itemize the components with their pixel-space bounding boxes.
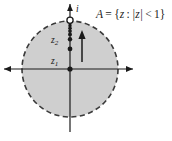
label-z2-subscript: 2 <box>55 39 59 47</box>
point-z1 <box>67 66 72 71</box>
complex-plane-figure: A = {z : |z| < 1} i z2 z1 <box>0 0 172 141</box>
set-name-A: A <box>96 8 103 20</box>
set-definition-label: A = {z : |z| < 1} <box>96 9 165 21</box>
modulus-expression: |z| <box>132 8 143 20</box>
imaginary-axis-arrowhead <box>67 4 73 11</box>
label-imaginary-unit: i <box>76 5 79 15</box>
label-z1-subscript: 1 <box>55 60 59 68</box>
real-axis-left-arrowhead <box>4 66 11 72</box>
label-point-z1: z1 <box>51 57 58 68</box>
real-axis-right-arrowhead <box>126 66 133 72</box>
label-point-z2: z2 <box>51 36 58 47</box>
point-z3 <box>68 37 72 41</box>
point-z2 <box>68 47 73 52</box>
point-i-open-circle <box>67 17 73 23</box>
figure-canvas <box>0 0 172 141</box>
close-brace: } <box>160 8 166 20</box>
